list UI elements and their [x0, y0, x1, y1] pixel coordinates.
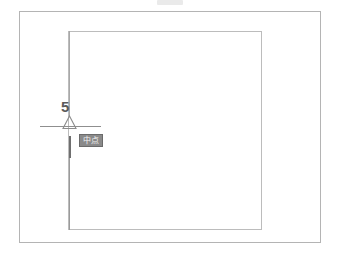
vertical-tracking-line-stub: [69, 136, 71, 158]
dimension-label: 5: [61, 99, 69, 114]
midpoint-snap-marker-icon: [61, 114, 78, 130]
cad-drawing-canvas[interactable]: 5 中点: [0, 0, 339, 262]
vertical-tracking-line-upper: [69, 31, 70, 116]
top-edge-artifact: [157, 0, 183, 5]
inner-rectangle[interactable]: [68, 31, 262, 230]
snap-tooltip: 中点: [79, 134, 103, 147]
